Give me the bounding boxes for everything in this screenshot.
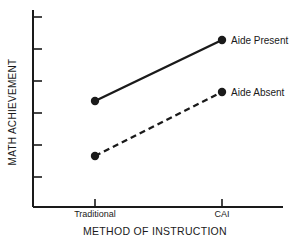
series-line-aide-absent [95, 92, 222, 156]
x-axis-title: METHOD OF INSTRUCTION [83, 225, 227, 237]
series-line-aide-present [95, 40, 222, 101]
data-point-aide-present-traditional [91, 97, 99, 105]
y-axis-ticks [33, 17, 42, 177]
chart-canvas: Aide Present Aide Absent Traditional CAI… [0, 0, 299, 241]
data-point-aide-absent-cai [218, 88, 226, 96]
interaction-line-chart: Aide Present Aide Absent Traditional CAI… [0, 0, 299, 241]
y-axis-title: MATH ACHIEVEMENT [7, 59, 18, 166]
data-point-aide-present-cai [218, 36, 226, 44]
x-tick-label-traditional: Traditional [74, 209, 116, 219]
data-point-aide-absent-traditional [91, 152, 99, 160]
x-tick-label-cai: CAI [214, 209, 229, 219]
series-label-aide-absent: Aide Absent [231, 87, 285, 98]
series-label-aide-present: Aide Present [231, 35, 288, 46]
x-axis-ticks [95, 199, 222, 207]
